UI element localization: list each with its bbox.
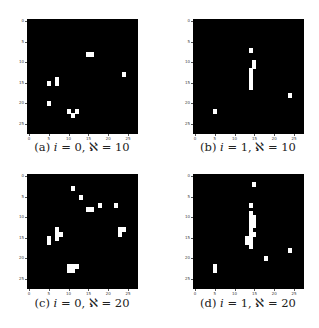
y-tick-mark [191, 176, 193, 177]
white-pixel [75, 109, 79, 114]
white-pixel [249, 48, 253, 53]
x-tick-mark [128, 289, 129, 291]
caption-a: (a) i = 0, ℵ = 10 [2, 140, 162, 154]
caption-c: (c) i = 0, ℵ = 20 [2, 296, 162, 310]
y-tick-mark [25, 21, 27, 22]
y-tick-mark [191, 21, 193, 22]
y-tick-mark [191, 238, 193, 239]
y-tick-mark [25, 103, 27, 104]
x-tick-mark [88, 134, 89, 136]
y-tick-label: 0 [16, 174, 24, 178]
white-pixel [252, 232, 256, 237]
y-tick-label: 20 [16, 256, 24, 260]
y-tick-mark [191, 258, 193, 259]
y-tick-label: 20 [16, 101, 24, 105]
x-tick-mark [128, 134, 129, 136]
y-tick-label: 20 [182, 101, 190, 105]
y-tick-label: 5 [182, 195, 190, 199]
y-tick-mark [25, 217, 27, 218]
y-tick-mark [25, 62, 27, 63]
white-pixel [71, 113, 75, 118]
x-tick-mark [215, 134, 216, 136]
y-tick-label: 20 [182, 256, 190, 260]
y-tick-mark [191, 124, 193, 125]
x-tick-mark [69, 289, 70, 291]
y-tick-mark [191, 217, 193, 218]
white-pixel [79, 195, 83, 200]
y-tick-label: 10 [16, 60, 24, 64]
caption-b: (b) i = 1, ℵ = 10 [168, 140, 319, 154]
white-pixel [71, 186, 75, 191]
y-tick-label: 5 [16, 40, 24, 44]
x-tick-mark [29, 134, 30, 136]
y-tick-label: 5 [16, 195, 24, 199]
x-tick-mark [294, 289, 295, 291]
white-pixel [122, 227, 126, 232]
white-pixel [252, 182, 256, 187]
x-tick-mark [49, 134, 50, 136]
y-tick-label: 25 [16, 277, 24, 281]
white-pixel [59, 232, 63, 237]
y-tick-label: 10 [182, 60, 190, 64]
white-pixel [75, 264, 79, 269]
y-tick-mark [25, 197, 27, 198]
white-pixel [90, 207, 94, 212]
y-tick-label: 10 [16, 215, 24, 219]
x-tick-mark [108, 134, 109, 136]
y-tick-label: 10 [182, 215, 190, 219]
x-tick-mark [254, 134, 255, 136]
y-tick-label: 15 [16, 81, 24, 85]
white-pixel [264, 256, 268, 261]
y-tick-label: 15 [182, 236, 190, 240]
heatmap-image [193, 19, 304, 134]
heatmap-image [27, 174, 138, 289]
heatmap-image [193, 174, 304, 289]
white-pixel [213, 109, 217, 114]
y-tick-label: 15 [182, 81, 190, 85]
x-tick-mark [69, 134, 70, 136]
y-tick-mark [191, 103, 193, 104]
y-tick-label: 25 [16, 122, 24, 126]
x-tick-mark [274, 134, 275, 136]
y-tick-mark [191, 197, 193, 198]
y-tick-mark [25, 258, 27, 259]
white-pixel [249, 85, 253, 90]
white-pixel [213, 268, 217, 273]
white-pixel [47, 81, 51, 86]
y-tick-label: 25 [182, 277, 190, 281]
white-pixel [252, 64, 256, 69]
y-tick-label: 25 [182, 122, 190, 126]
y-tick-mark [191, 83, 193, 84]
white-pixel [47, 240, 51, 245]
x-tick-mark [215, 289, 216, 291]
heatmap-image [27, 19, 138, 134]
y-tick-label: 0 [16, 19, 24, 23]
x-tick-mark [29, 289, 30, 291]
x-tick-mark [274, 289, 275, 291]
y-tick-mark [25, 83, 27, 84]
y-tick-mark [191, 279, 193, 280]
white-pixel [114, 203, 118, 208]
y-tick-mark [191, 62, 193, 63]
y-tick-label: 0 [182, 19, 190, 23]
y-tick-mark [25, 42, 27, 43]
x-tick-mark [235, 134, 236, 136]
white-pixel [252, 223, 256, 228]
white-pixel [55, 81, 59, 86]
y-tick-label: 0 [182, 174, 190, 178]
y-tick-mark [191, 42, 193, 43]
x-tick-mark [108, 289, 109, 291]
white-pixel [288, 93, 292, 98]
white-pixel [249, 244, 253, 249]
y-tick-mark [25, 279, 27, 280]
white-pixel [47, 101, 51, 106]
white-pixel [98, 203, 102, 208]
y-tick-label: 15 [16, 236, 24, 240]
white-pixel [90, 52, 94, 57]
x-tick-mark [254, 289, 255, 291]
white-pixel [122, 72, 126, 77]
white-pixel [288, 248, 292, 253]
y-tick-mark [25, 124, 27, 125]
y-tick-mark [25, 176, 27, 177]
x-tick-mark [294, 134, 295, 136]
